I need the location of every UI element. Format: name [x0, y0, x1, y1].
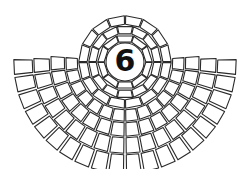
cell	[126, 122, 139, 137]
cell	[89, 47, 99, 62]
cell	[126, 137, 140, 153]
cell	[172, 58, 184, 70]
cell	[110, 137, 124, 153]
cell	[89, 62, 99, 77]
cell	[200, 58, 216, 72]
cell	[34, 58, 50, 72]
cell	[160, 45, 171, 62]
cell	[217, 60, 236, 75]
cell	[141, 150, 159, 169]
cell	[198, 73, 216, 89]
cell	[117, 27, 132, 34]
cell	[126, 97, 143, 108]
cell	[117, 90, 132, 97]
cell	[185, 57, 199, 70]
cell	[214, 75, 235, 92]
cell	[51, 57, 65, 70]
cell	[14, 60, 33, 75]
cell	[160, 63, 171, 80]
cell	[66, 58, 78, 70]
cell	[117, 82, 133, 88]
cell	[108, 16, 125, 27]
cell	[112, 109, 124, 122]
cell	[79, 45, 90, 62]
figure-label: 6	[107, 42, 143, 78]
cell-rings	[14, 16, 236, 169]
cell-tissue-diagram	[0, 0, 250, 169]
cell	[151, 62, 161, 77]
cell	[109, 154, 124, 169]
cell	[108, 97, 125, 108]
cell	[15, 75, 36, 92]
cell	[79, 63, 90, 80]
cell	[126, 109, 138, 122]
cell	[51, 70, 67, 85]
cell	[183, 70, 199, 85]
cell	[111, 122, 124, 137]
cell	[126, 154, 141, 169]
cell	[35, 73, 53, 89]
cell	[91, 150, 109, 169]
cell	[151, 47, 161, 62]
cell	[126, 16, 143, 27]
